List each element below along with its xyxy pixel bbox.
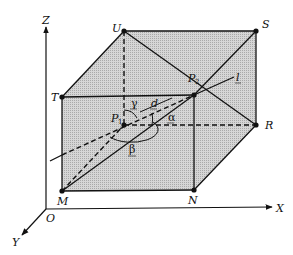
vertex-u-label: U [112,22,122,35]
p1-sub: 1 [118,118,122,126]
line-l-label: l [236,71,240,84]
vertex-s-label: S [262,18,270,31]
y-axis-label: Y [12,236,21,249]
x-axis-label: X [275,202,285,215]
vertex-r-label: R [264,119,273,132]
z-axis-label: Z [41,14,50,27]
line-l-tail [50,155,62,161]
beta-label: β [129,143,135,156]
x-axis [46,207,272,209]
vertex-n-label: N [187,194,198,207]
distance-d-label: d [151,97,158,110]
box-geometry-diagram: Z X Y O U S T R M N P 1 P 2 l d γ α β [0,0,293,255]
origin-label: O [46,212,55,225]
y-axis [22,209,46,235]
gamma-label: γ [131,97,138,110]
p2-sub: 2 [195,78,199,86]
alpha-label: α [168,111,176,124]
vertex-m-label: M [56,195,69,208]
vertex-t-label: T [51,91,60,104]
